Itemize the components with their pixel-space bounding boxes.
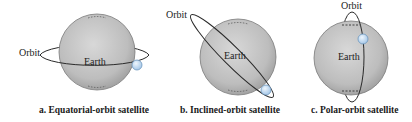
orbit-label: Orbit	[166, 9, 187, 20]
satellite-icon	[358, 34, 368, 44]
earth-label: Earth	[84, 56, 106, 67]
earth-label: Earth	[338, 51, 360, 62]
caption-inclined: b. Inclined-orbit satellite	[180, 105, 280, 115]
caption-polar: c. Polar-orbit satellite	[311, 105, 399, 115]
satellite-icon	[132, 60, 142, 70]
panel-equatorial	[40, 14, 149, 90]
orbit-label: Orbit	[19, 47, 40, 58]
orbit-label: Orbit	[341, 0, 362, 11]
earth-label: Earth	[224, 50, 246, 61]
caption-equatorial: a. Equatorial-orbit satellite	[39, 105, 149, 115]
satellite-icon	[261, 85, 271, 95]
earth-sphere	[59, 14, 135, 90]
